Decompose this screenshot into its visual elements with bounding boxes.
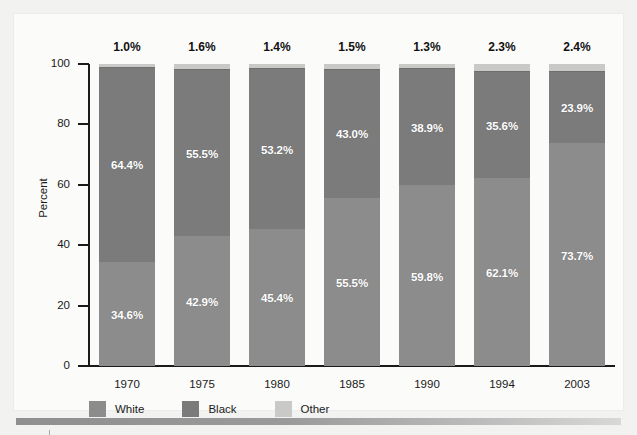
y-tick-mark xyxy=(78,63,89,65)
plot-area: 34.6%64.4%1.0%42.9%55.5%1.6%45.4%53.2%1.… xyxy=(89,64,614,366)
bar-stack: 42.9%55.5%1.6% xyxy=(174,64,230,366)
bar-value-label-black: 35.6% xyxy=(474,120,530,132)
bar-value-label-other: 1.4% xyxy=(249,40,305,54)
bar-stack: 62.1%35.6%2.3% xyxy=(474,64,530,366)
y-tick-label: 40 xyxy=(36,239,70,251)
y-tick-mark xyxy=(78,184,89,186)
y-tick-label-wrap: 20 xyxy=(36,300,70,312)
bar-value-label-black: 64.4% xyxy=(99,159,155,171)
legend-item[interactable]: Other xyxy=(275,401,330,417)
y-tick-label: 0 xyxy=(36,360,70,372)
bar-segment-other[interactable] xyxy=(399,64,455,68)
bar-value-label-other: 2.3% xyxy=(474,40,530,54)
bar-value-label-other: 1.5% xyxy=(324,40,380,54)
y-tick-label: 60 xyxy=(36,179,70,191)
y-tick-label-wrap: 60 xyxy=(36,179,70,191)
bar-segment-other[interactable] xyxy=(174,64,230,69)
y-tick-label-wrap: 100 xyxy=(36,58,70,70)
y-tick-label-wrap: 0 xyxy=(36,360,70,372)
x-tick-label: 2003 xyxy=(549,378,605,390)
footer-rule-decoration xyxy=(16,418,621,425)
legend-label: Black xyxy=(208,403,236,415)
y-tick-mark xyxy=(78,305,89,307)
x-tick-label: 1985 xyxy=(324,378,380,390)
legend-swatch-icon xyxy=(89,401,106,417)
legend-label: White xyxy=(115,403,144,415)
legend-swatch-icon xyxy=(275,401,292,417)
bar-segment-other[interactable] xyxy=(249,64,305,68)
bar-value-label-white: 59.8% xyxy=(399,271,455,283)
x-tick-label: 1975 xyxy=(174,378,230,390)
x-tick-label: 1994 xyxy=(474,378,530,390)
bar-value-label-black: 38.9% xyxy=(399,122,455,134)
legend-swatch-icon xyxy=(182,401,199,417)
bar-value-label-other: 1.3% xyxy=(399,40,455,54)
y-tick-mark xyxy=(78,365,89,367)
bar-value-label-white: 62.1% xyxy=(474,267,530,279)
bar-segment-other[interactable] xyxy=(474,64,530,71)
bar-value-label-white: 42.9% xyxy=(174,296,230,308)
legend-item[interactable]: Black xyxy=(182,401,236,417)
bar-stack: 55.5%43.0%1.5% xyxy=(324,64,380,366)
page-background: Percent 020406080100 34.6%64.4%1.0%42.9%… xyxy=(0,0,637,435)
bar-value-label-black: 23.9% xyxy=(549,102,605,114)
y-tick-label-wrap: 80 xyxy=(36,118,70,130)
y-axis-title: Percent xyxy=(37,153,49,243)
bar-value-label-other: 1.6% xyxy=(174,40,230,54)
footer-tick-decoration xyxy=(49,430,50,435)
bar-segment-other[interactable] xyxy=(324,64,380,69)
bar-segment-other[interactable] xyxy=(549,64,605,71)
figure-panel: Percent 020406080100 34.6%64.4%1.0%42.9%… xyxy=(14,14,623,410)
x-tick-label: 1970 xyxy=(99,378,155,390)
bar-value-label-black: 53.2% xyxy=(249,144,305,156)
x-tick-label: 1980 xyxy=(249,378,305,390)
legend-item[interactable]: White xyxy=(89,401,144,417)
bar-stack: 34.6%64.4%1.0% xyxy=(99,64,155,366)
bar-value-label-white: 34.6% xyxy=(99,309,155,321)
y-tick-label: 20 xyxy=(36,300,70,312)
y-tick-label: 80 xyxy=(36,118,70,130)
legend: WhiteBlackOther xyxy=(89,400,367,418)
bar-value-label-white: 45.4% xyxy=(249,292,305,304)
bar-stack: 73.7%23.9%2.4% xyxy=(549,64,605,366)
y-tick-label: 100 xyxy=(36,58,70,70)
bar-segment-other[interactable] xyxy=(99,64,155,67)
bar-value-label-white: 73.7% xyxy=(549,250,605,262)
bar-value-label-white: 55.5% xyxy=(324,277,380,289)
bar-value-label-black: 43.0% xyxy=(324,128,380,140)
x-tick-label: 1990 xyxy=(399,378,455,390)
legend-label: Other xyxy=(301,403,330,415)
y-tick-mark xyxy=(78,123,89,125)
y-tick-mark xyxy=(78,244,89,246)
y-tick-label-wrap: 40 xyxy=(36,239,70,251)
bar-stack: 45.4%53.2%1.4% xyxy=(249,64,305,366)
bar-value-label-black: 55.5% xyxy=(174,148,230,160)
bar-value-label-other: 2.4% xyxy=(549,40,605,54)
bar-stack: 59.8%38.9%1.3% xyxy=(399,64,455,366)
bar-value-label-other: 1.0% xyxy=(99,40,155,54)
